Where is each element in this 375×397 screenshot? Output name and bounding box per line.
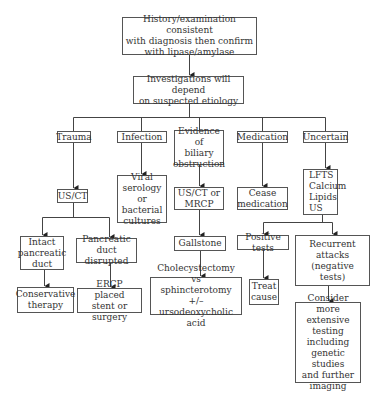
node-infection: Infection [117,131,167,143]
node-consider: Consider more extensive testing includin… [295,302,361,383]
node-ercp: ERCP placed stent or surgery [77,288,142,313]
node-cholecystectomy: Cholecystectomy vs sphincterotomy +/– ur… [150,277,242,315]
node-viral: Viral serology or bacterial cultures [117,175,167,223]
node-disrupted: Pancreatic duct disrupted [76,238,137,263]
node-us-ct-mrcp: US/CT or MRCP [174,187,224,210]
node-recurrent: Recurrent attacks (negative tests) [295,235,370,286]
node-treat: Treat cause [249,279,279,305]
node-biliary: Evidence of biliary obstruction [174,130,224,165]
node-us-ct: US/CT [57,189,88,203]
node-uncertain: Uncertain [303,131,348,143]
node-intact: Intact pancreatic duct [20,236,64,270]
node-cease: Cease medication [237,187,288,210]
node-investigations: Investigations will depend on suspected … [133,76,244,104]
node-gallstone: Gallstone [174,236,226,251]
node-start: History/examination consistent with diag… [122,17,257,55]
node-trauma: Trauma [57,131,91,143]
node-medication: Medication [237,131,288,143]
node-lfts: LFTS Calcium Lipids US [303,169,338,215]
node-positive: Positive tests [237,235,289,250]
node-conservative: Conservative therapy [17,287,74,313]
